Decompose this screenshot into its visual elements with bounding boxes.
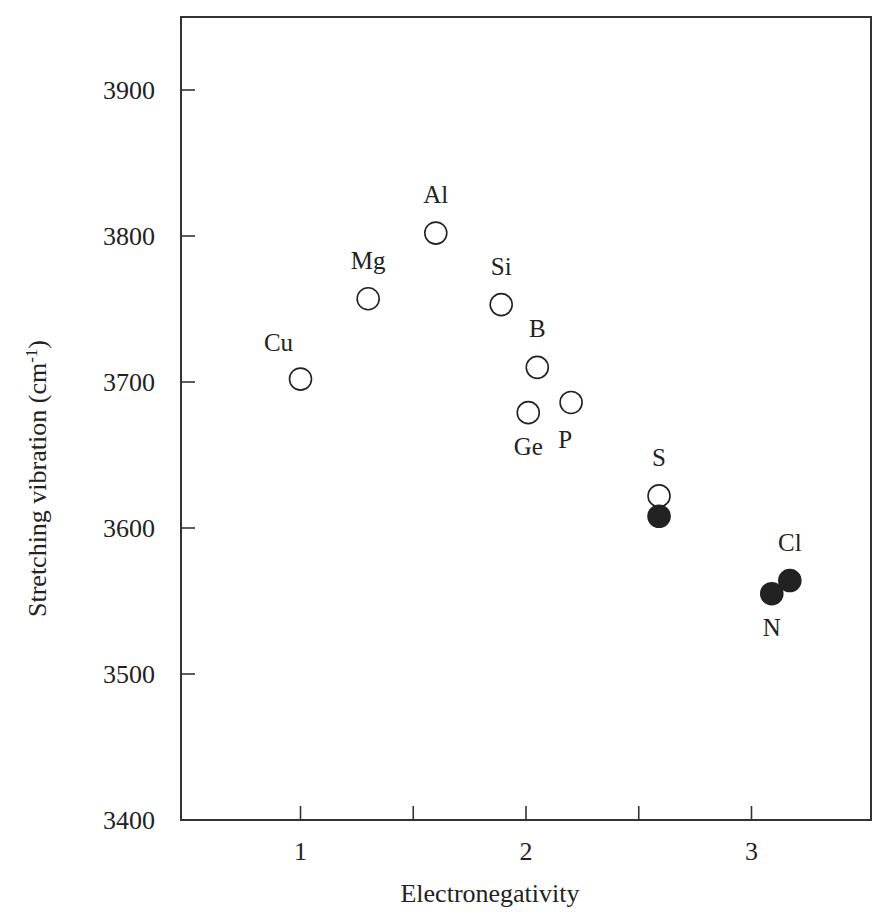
point-label: Si	[491, 253, 512, 280]
point-label: S	[652, 444, 666, 471]
y-tick-label: 3600	[103, 514, 155, 543]
point-label: B	[529, 315, 546, 342]
open-data-point	[490, 294, 512, 316]
y-tick-label: 3500	[103, 660, 155, 689]
y-axis-title-suffix: )	[23, 340, 52, 349]
filled-data-point	[761, 583, 783, 605]
point-label: Ge	[514, 433, 543, 460]
x-tick-label: 2	[520, 837, 533, 866]
open-data-point	[290, 368, 312, 390]
filled-data-point	[648, 505, 670, 527]
data-points: CuMgAlSiBGePSClN	[264, 181, 802, 641]
open-data-point	[526, 356, 548, 378]
x-axis-title: Electronegativity	[400, 879, 579, 908]
open-data-point	[425, 222, 447, 244]
scatter-chart: 123 340035003600370038003900 CuMgAlSiBGe…	[0, 0, 890, 923]
point-label: Cl	[778, 529, 802, 556]
open-data-point	[357, 288, 379, 310]
open-data-point	[648, 485, 670, 507]
y-tick-label: 3800	[103, 222, 155, 251]
point-label: P	[558, 426, 572, 453]
y-tick-label: 3900	[103, 76, 155, 105]
open-data-point	[517, 402, 539, 424]
x-axis: 123	[294, 806, 758, 866]
y-tick-label: 3400	[103, 806, 155, 835]
point-label: Mg	[351, 247, 386, 274]
y-axis-title: Stretching vibration (cm-1)	[22, 340, 53, 617]
point-label: Cu	[264, 329, 294, 356]
y-axis-title-main: Stretching vibration (cm	[23, 363, 52, 617]
x-tick-label: 3	[745, 837, 758, 866]
open-data-point	[560, 391, 582, 413]
point-label: Al	[423, 181, 448, 208]
point-label: N	[763, 614, 781, 641]
x-tick-label: 1	[294, 837, 307, 866]
y-tick-label: 3700	[103, 368, 155, 397]
y-axis-title-superscript: -1	[22, 349, 41, 363]
